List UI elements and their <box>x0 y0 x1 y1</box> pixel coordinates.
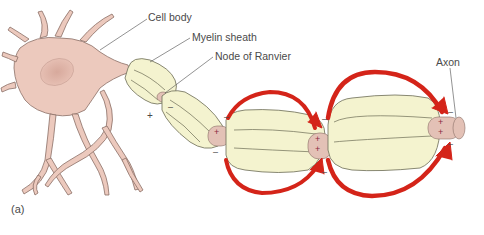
plus-sign: + <box>147 110 153 121</box>
neuron-saltatory-conduction-diagram: Cell body Myelin sheath Node of Ranvier … <box>0 0 484 235</box>
axon-label: Axon <box>436 56 460 68</box>
minus-sign: – <box>213 147 218 157</box>
cell-body-label: Cell body <box>148 11 192 23</box>
node-of-ranvier-label: Node of Ranvier <box>215 50 291 62</box>
minus-sign: – <box>448 107 453 117</box>
plus-sign: + <box>214 127 219 137</box>
minus-sign: – <box>168 102 173 112</box>
minus-sign: – <box>448 139 453 149</box>
cell-body <box>1 10 143 195</box>
plus-sign: + <box>438 127 443 137</box>
minus-sign: – <box>224 112 229 122</box>
myelin-sheath-label: Myelin sheath <box>192 31 257 43</box>
plus-sign: + <box>315 144 320 154</box>
myelin-segment-4 <box>328 95 440 171</box>
minus-sign: – <box>322 167 327 177</box>
minus-sign: – <box>322 114 327 124</box>
panel-label: (a) <box>11 203 24 215</box>
plus-sign: + <box>438 117 443 127</box>
axon-end <box>428 117 465 139</box>
plus-sign: + <box>315 134 320 144</box>
